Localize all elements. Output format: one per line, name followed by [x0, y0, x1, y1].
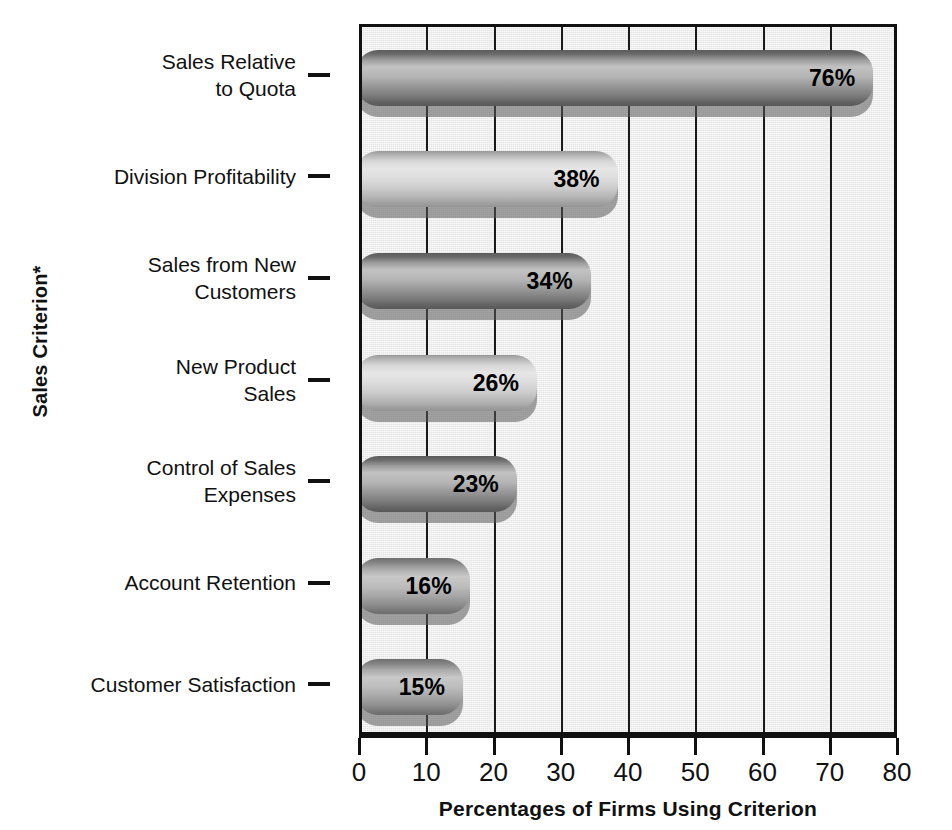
category-tick	[308, 174, 330, 178]
x-axis-tick-label: 20	[464, 757, 524, 788]
gridline	[695, 27, 697, 732]
category-label: Control of Sales Expenses	[6, 454, 296, 508]
x-axis-tick-label: 10	[396, 757, 456, 788]
x-axis-tick-label: 70	[800, 757, 860, 788]
bar[interactable]: 38%	[359, 151, 618, 207]
x-axis-tick	[493, 738, 496, 755]
x-axis-tick	[358, 738, 361, 755]
category-tick	[308, 378, 330, 382]
gridline	[830, 27, 832, 732]
category-label: Account Retention	[6, 569, 296, 596]
x-axis-tick-label: 80	[867, 757, 927, 788]
x-axis-tick	[627, 738, 630, 755]
bar-chart: Sales Criterion* Sales Relative to Quota…	[0, 0, 952, 830]
x-axis-tick	[425, 738, 428, 755]
x-axis-tick-label: 30	[531, 757, 591, 788]
y-axis-category-labels: Sales Relative to QuotaDivision Profitab…	[40, 24, 330, 735]
bar[interactable]: 34%	[359, 253, 591, 309]
bar-value-label: 23%	[453, 471, 499, 498]
bar-value-label: 38%	[554, 166, 600, 193]
category-label: Customer Satisfaction	[6, 671, 296, 698]
category-label: Sales Relative to Quota	[6, 48, 296, 102]
x-axis-tick-label: 60	[733, 757, 793, 788]
x-axis-tick-label: 40	[598, 757, 658, 788]
bar[interactable]: 16%	[359, 558, 470, 614]
x-axis-tick	[694, 738, 697, 755]
category-label: New Product Sales	[6, 353, 296, 407]
x-axis-tick	[762, 738, 765, 755]
gridline	[763, 27, 765, 732]
category-tick	[308, 276, 330, 280]
x-axis-title: Percentages of Firms Using Criterion	[359, 797, 897, 821]
bar-value-label: 16%	[406, 572, 452, 599]
bar-value-label: 26%	[473, 369, 519, 396]
bar-value-label: 15%	[399, 674, 445, 701]
x-axis-tick	[560, 738, 563, 755]
category-tick	[308, 581, 330, 585]
x-axis-tick-label: 50	[665, 757, 725, 788]
category-tick	[308, 73, 330, 77]
plot-area: 76%38%34%26%23%16%15%	[359, 24, 897, 735]
bar[interactable]: 76%	[359, 50, 873, 106]
category-tick	[308, 682, 330, 686]
x-axis-tick-label: 0	[329, 757, 389, 788]
gridline	[561, 27, 563, 732]
bar[interactable]: 15%	[359, 659, 463, 715]
x-axis-tick	[896, 738, 899, 755]
category-label: Sales from New Customers	[6, 251, 296, 305]
bar-value-label: 34%	[527, 267, 573, 294]
bar[interactable]: 23%	[359, 456, 517, 512]
category-tick	[308, 479, 330, 483]
bar-value-label: 76%	[809, 64, 855, 91]
gridline	[628, 27, 630, 732]
x-axis-tick	[829, 738, 832, 755]
bar[interactable]: 26%	[359, 355, 537, 411]
category-label: Division Profitability	[6, 163, 296, 190]
